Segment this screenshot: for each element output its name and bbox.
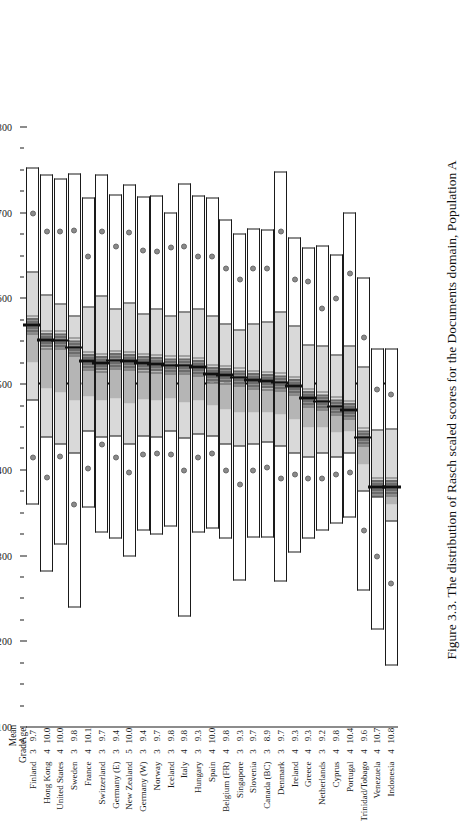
percentile-divider [247, 323, 260, 324]
mean-age-value: 10.0 [55, 727, 65, 743]
list-item: Hungary [193, 761, 203, 793]
percentile-divider [150, 436, 163, 437]
mean-band-hatch [178, 355, 191, 356]
percentile-dot [99, 441, 105, 447]
percentile-divider [274, 445, 287, 446]
grade-value: 3 [193, 749, 203, 754]
list-item: France [83, 761, 93, 786]
list-item: Singapore [235, 761, 245, 798]
table-row [302, 127, 315, 727]
mean-band-hatch [288, 394, 301, 395]
percentile-dot [361, 334, 367, 340]
bar-outline [206, 197, 219, 528]
grade-value: 3 [111, 749, 121, 754]
mean-band-hatch [192, 360, 205, 361]
list-item: Netherlands [317, 761, 327, 804]
mean-band-hatch [219, 383, 232, 384]
axis-tick-label: 800 [0, 119, 10, 135]
grade-value: 4 [345, 749, 355, 754]
axis-tick-minor [20, 362, 24, 363]
list-item: Denmark [276, 761, 286, 795]
list-item: Venezuela [372, 761, 382, 798]
percentile-divider [385, 520, 398, 521]
mean-band-hatch [109, 365, 122, 366]
mean-age-value: 9.8 [221, 729, 231, 740]
mean-age-value: 9.4 [138, 729, 148, 740]
percentile-divider [233, 329, 246, 330]
axis-tick-minor [20, 705, 24, 706]
mean-age-value: 10.4 [345, 727, 355, 743]
bar-outline [233, 233, 246, 579]
table-row [137, 127, 150, 727]
table-row [247, 127, 260, 727]
mean-band-hatch [302, 403, 315, 404]
mean-band-hatch [274, 378, 287, 379]
mean-band-hatch [219, 365, 232, 366]
mean-band-hatch [288, 391, 301, 392]
mean-band-hatch [95, 365, 108, 366]
mean-band-hatch [150, 360, 163, 361]
mean-band-hatch [178, 361, 191, 362]
mean-band-hatch [385, 480, 398, 481]
axis-tick-label: 100 [0, 719, 10, 735]
list-item: Finland [28, 761, 38, 789]
mean-age-value: 9.3 [193, 729, 203, 740]
percentile-divider [54, 303, 67, 304]
mean-band-hatch [316, 409, 329, 410]
percentile-divider [164, 315, 177, 316]
mean-age-value: 9.3 [235, 729, 245, 740]
axis-tick-minor [20, 619, 24, 620]
table-row [288, 127, 301, 727]
grade-value: 3 [276, 749, 286, 754]
mean-band-hatch [206, 367, 219, 368]
percentile-dot [99, 228, 105, 234]
mean-band-hatch [54, 333, 67, 334]
mean-band-hatch [164, 373, 177, 374]
grade-value: 4 [372, 749, 382, 754]
mean-band-hatch [206, 379, 219, 380]
table-row [233, 127, 246, 727]
table-row [261, 127, 274, 727]
mean-band-hatch [385, 489, 398, 490]
percentile-divider [40, 294, 53, 295]
header-grade-label: Grade [18, 739, 28, 762]
percentile-divider [192, 308, 205, 309]
axis-tick-label: 600 [0, 291, 10, 307]
list-item: Ireland [290, 761, 300, 786]
axis-tick-minor [20, 447, 24, 448]
percentile-dot [154, 450, 160, 456]
mean-band-hatch [343, 406, 356, 407]
mean-band-hatch [343, 415, 356, 416]
mean-band-hatch [302, 394, 315, 395]
mean-band-hatch [274, 372, 287, 373]
axis-tick-minor [20, 340, 24, 341]
mean-band-hatch [371, 477, 384, 478]
mean-band-hatch [357, 445, 370, 446]
axis-tick-minor [20, 533, 24, 534]
mean-band-hatch [274, 387, 287, 388]
percentile-divider [385, 428, 398, 429]
mean-band-hatch [371, 489, 384, 490]
mean-band-hatch [385, 492, 398, 493]
bar-outline [68, 173, 81, 607]
mean-age-value: 10.7 [372, 727, 382, 743]
list-item: Sweden [69, 761, 79, 790]
mean-band-hatch [150, 354, 163, 355]
mean-band-hatch [178, 373, 191, 374]
percentile-dot [264, 265, 270, 271]
bar-outline [330, 254, 343, 523]
axis-tick-minor [20, 190, 24, 191]
mean-band-hatch [330, 411, 343, 412]
axis-tick-label: 400 [0, 462, 10, 478]
list-item: Switzerland [97, 761, 107, 804]
percentile-divider [330, 456, 343, 457]
grade-value: 3 [28, 749, 38, 754]
percentile-dot [154, 248, 160, 254]
list-item: Canada (BC) [262, 761, 272, 808]
percentile-dot [237, 481, 243, 487]
mean-band-hatch [206, 382, 219, 383]
mean-age-value: 9.8 [166, 729, 176, 740]
mean-band-hatch [274, 390, 287, 391]
table-row [40, 127, 53, 727]
mean-band-hatch [137, 359, 150, 360]
